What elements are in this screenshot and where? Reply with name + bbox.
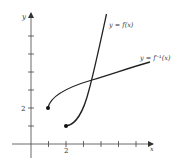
label-f-inverse: y = f⁻¹(x) (139, 54, 171, 62)
label-f: y = f(x) (108, 21, 134, 29)
x-tick-label-2: 2 (64, 147, 68, 155)
curve-f-inverse-start-point (46, 106, 50, 110)
curve-f-start-point (64, 124, 68, 128)
function-inverse-chart: 2 2 y x y = f(x) y = f⁻¹(x) (0, 0, 180, 166)
y-tick-label-2: 2 (21, 105, 25, 113)
curve-f (66, 14, 107, 126)
x-axis-label: x (150, 145, 154, 153)
curve-f-inverse (48, 62, 150, 108)
y-axis-label: y (21, 13, 27, 21)
